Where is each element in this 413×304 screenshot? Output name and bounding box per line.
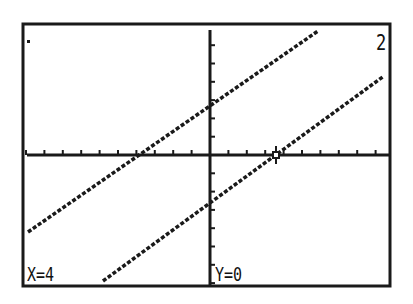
upper-graph-line [28, 31, 318, 232]
lower-graph-line [103, 76, 384, 281]
y-axis [210, 30, 215, 287]
graph-number-indicator: 2 [376, 32, 386, 53]
cursor-y-value: Y=0 [215, 266, 242, 285]
cursor-x-value: X=4 [27, 266, 54, 285]
graph-screen [0, 0, 413, 304]
x-axis [26, 150, 390, 155]
pixel-dot [27, 40, 30, 43]
